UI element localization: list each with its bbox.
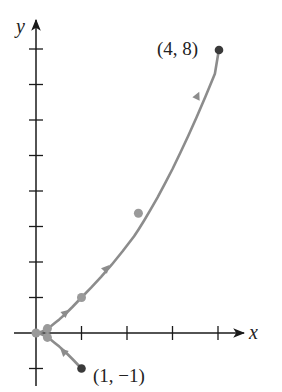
point-marker xyxy=(43,324,52,333)
point-marker xyxy=(134,209,143,218)
point-marker xyxy=(43,333,52,342)
x-axis-label: x xyxy=(248,321,258,343)
direction-arrows xyxy=(57,90,202,357)
start-point-label: (1, −1) xyxy=(93,365,145,387)
end-point xyxy=(215,46,224,55)
y-axis-label: y xyxy=(14,15,25,38)
arrow-icon xyxy=(192,90,203,101)
point-marker xyxy=(32,329,41,338)
end-point-label: (4, 8) xyxy=(157,38,198,60)
parametric-curve xyxy=(36,49,219,369)
curve-markers xyxy=(32,209,143,342)
start-point xyxy=(77,364,86,373)
parametric-plot: x y (1, −1) (4, 8) xyxy=(0,0,282,392)
point-marker xyxy=(77,293,86,302)
